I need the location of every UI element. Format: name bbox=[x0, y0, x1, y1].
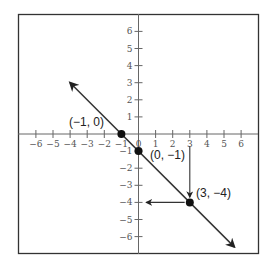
x-tick-label: −6 bbox=[29, 139, 43, 149]
data-point bbox=[186, 198, 194, 206]
y-tick-label: −4 bbox=[119, 197, 133, 207]
y-tick-label: −1 bbox=[119, 146, 132, 156]
x-tick-label: −5 bbox=[46, 139, 60, 149]
line-y-equals-neg-x-minus-1 bbox=[70, 83, 234, 247]
x-tick-label: 6 bbox=[238, 139, 244, 149]
y-tick-label: −2 bbox=[119, 163, 132, 173]
y-tick-label: 4 bbox=[127, 61, 133, 71]
y-tick-label: 2 bbox=[127, 95, 133, 105]
point-label-3-neg4: (3, −4) bbox=[196, 186, 231, 200]
y-tick-label: −6 bbox=[119, 232, 133, 242]
point-label-neg1-0: (−1, 0) bbox=[69, 115, 104, 129]
point-label-0-neg1: (0, −1) bbox=[150, 148, 185, 162]
x-axis-ticks: −6−5−4−3−2−10123456 bbox=[29, 130, 244, 149]
y-tick-label: 6 bbox=[127, 26, 133, 36]
y-tick-label: −5 bbox=[119, 215, 133, 225]
coordinate-plane-chart: −6−5−4−3−2−10123456 −6−5−4−3−2−1123456 (… bbox=[0, 0, 274, 272]
data-point bbox=[135, 147, 143, 155]
y-tick-label: 3 bbox=[127, 78, 133, 88]
y-tick-label: 5 bbox=[127, 44, 133, 54]
x-tick-label: −2 bbox=[98, 139, 111, 149]
x-tick-label: 4 bbox=[204, 139, 210, 149]
x-tick-label: −4 bbox=[63, 139, 77, 149]
y-tick-label: −3 bbox=[119, 180, 133, 190]
data-point bbox=[117, 130, 125, 138]
x-tick-label: −3 bbox=[81, 139, 95, 149]
y-tick-label: 1 bbox=[127, 112, 133, 122]
x-tick-label: 5 bbox=[221, 139, 227, 149]
